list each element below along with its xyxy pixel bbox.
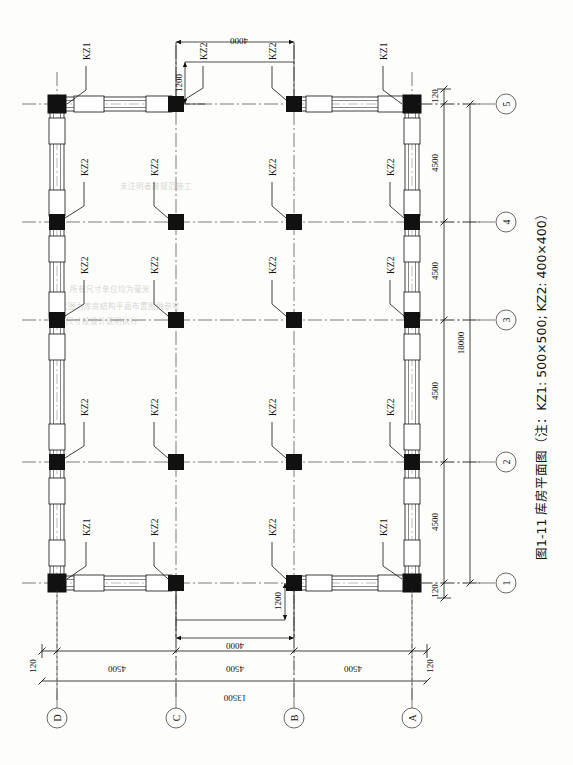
grid-bubble-label: B (289, 714, 300, 721)
column-label: KZ1 (82, 518, 92, 536)
column-kz2 (168, 312, 184, 328)
column-label: KZ2 (80, 398, 90, 416)
column-label: KZ2 (268, 158, 278, 176)
wall-bottom-right (294, 575, 412, 591)
dimension-bottom-seg: 4500 (108, 664, 127, 674)
grid-bubble: 2 (470, 452, 516, 472)
grid-bubble-label: C (171, 714, 182, 721)
column-label: KZ1 (379, 518, 389, 536)
column-callouts (65, 66, 404, 579)
column-label: KZ2 (150, 518, 160, 536)
dimension-total-right-label: 18000 (456, 331, 466, 354)
column-kz2 (286, 96, 302, 112)
column-kz1 (48, 95, 67, 114)
dimension-top-opening-width: 4000 (230, 36, 249, 46)
column-kz2 (168, 575, 184, 591)
dimension-total-bottom (39, 678, 431, 685)
grid-bubble-label: D (52, 714, 63, 721)
column-kz2 (286, 575, 302, 591)
column-label: KZ2 (150, 158, 160, 176)
column-label: KZ2 (150, 398, 160, 416)
dimension-total-right (467, 101, 474, 587)
column-kz2 (286, 454, 302, 470)
grid-bubble: 3 (470, 310, 516, 330)
perimeter-walls (49, 96, 420, 591)
column-label: KZ2 (199, 42, 209, 60)
column-kz2 (168, 96, 184, 112)
figure-caption: 图1-11 库房平面图（注：KZ1: 500×500; KZ2: 400×400… (534, 207, 549, 560)
structural-plan-drawing: KZ1 KZ2 KZ2 KZ1 KZ2 KZ2 KZ2 KZ2 KZ2 KZ2 … (0, 0, 573, 765)
grid-bubble: D (47, 692, 67, 728)
grid-bubble-label: 2 (501, 460, 512, 465)
column-kz2 (49, 312, 65, 328)
wall-bottom-left (57, 575, 176, 591)
column-label: KZ2 (80, 256, 90, 274)
dimension-bottom-seg: 120 (28, 659, 38, 673)
column-kz2 (168, 214, 184, 230)
column-kz2 (404, 312, 420, 328)
column-label: KZ2 (268, 256, 278, 274)
grid-bubble-label: 4 (501, 220, 512, 225)
column-kz2 (168, 454, 184, 470)
grid-bubble: C (166, 692, 186, 728)
column-kz2 (286, 312, 302, 328)
column-kz2 (404, 214, 420, 230)
column-label: KZ2 (268, 518, 278, 536)
column-kz2 (286, 214, 302, 230)
columns-kz2 (49, 96, 420, 591)
column-label: KZ1 (82, 42, 92, 60)
dimension-bottom-seg: 4500 (226, 664, 245, 674)
column-label: KZ2 (386, 398, 396, 416)
columns-kz1 (48, 95, 422, 593)
grid-bubble-label: 1 (501, 581, 512, 586)
column-label: KZ1 (379, 42, 389, 60)
grid-bubble-label: 5 (501, 102, 512, 107)
grid-bubble: A (402, 692, 422, 728)
column-kz1 (403, 95, 422, 114)
dimension-right-seg: 4500 (430, 262, 440, 281)
dimension-right-seg: 120 (430, 584, 440, 598)
grid-bubble-label: 3 (501, 318, 512, 323)
column-kz1 (403, 574, 422, 593)
dimension-right-seg: 120 (430, 89, 440, 103)
dimension-bottom-opening-width: 4000 (226, 641, 245, 651)
column-label: KZ2 (386, 158, 396, 176)
grid-bubble-label: A (407, 714, 418, 722)
grid-bubble: 4 (470, 212, 516, 232)
dimension-bottom-opening-offset: 1200 (273, 592, 283, 611)
dimension-total-bottom-label: 13500 (223, 693, 246, 703)
dimension-bottom-seg: 4500 (344, 664, 363, 674)
column-kz2 (49, 454, 65, 470)
column-label: KZ2 (150, 256, 160, 274)
grid-bubble: 5 (470, 94, 516, 114)
column-label: KZ2 (80, 158, 90, 176)
column-label: KZ2 (386, 256, 396, 274)
dimension-right-seg: 4500 (430, 382, 440, 401)
column-kz1 (48, 574, 67, 593)
column-label: KZ2 (268, 398, 278, 416)
bottom-extension-lines (57, 590, 412, 692)
column-kz2 (49, 214, 65, 230)
column-kz2 (404, 454, 420, 470)
grid-bubble: 1 (470, 573, 516, 593)
grid-bubble: B (284, 692, 304, 728)
dimension-right-seg: 4500 (430, 154, 440, 173)
dimension-right-seg: 4500 (430, 513, 440, 532)
dimension-top-opening-offset: 1200 (174, 74, 184, 93)
dimension-bottom-seg: 120 (425, 659, 435, 673)
grid-bubbles-vertical: 5 4 3 2 1 (470, 94, 516, 593)
column-label: KZ2 (268, 42, 278, 60)
